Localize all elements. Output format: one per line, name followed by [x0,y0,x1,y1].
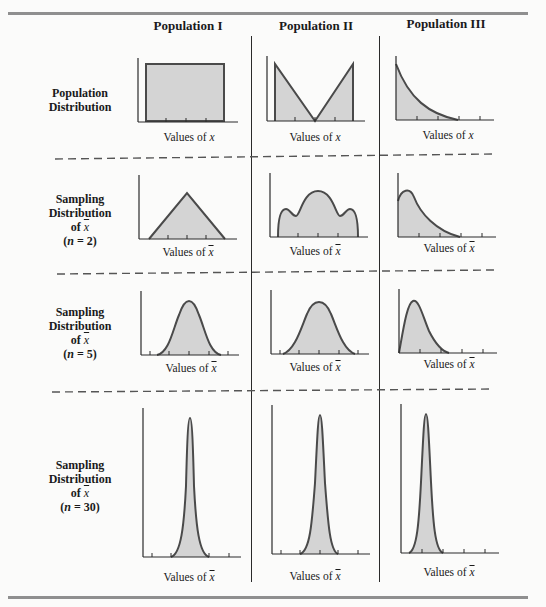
caption-pop1-n5: Values of x [131,362,251,374]
row-label-line: of x [36,333,124,347]
caption-pop3-n2: Values of x [389,242,509,254]
x-symbol: x [335,131,340,143]
row-label-line: of x [36,486,124,500]
plot-pop3-n5 [397,287,501,357]
xbar-symbol: x [84,333,89,347]
caption-pop2-n30: Values of x [255,570,375,582]
n-symbol: n [67,347,74,361]
row-label-line: Population [36,86,124,100]
caption-prefix: Values of [163,131,209,143]
of-text: of [71,333,84,347]
xbar-symbol: x [469,358,474,370]
caption-prefix: Values of [422,129,468,141]
equals: = [71,500,84,514]
row-label-sampling-n30: Sampling Distribution of x (n = 30) [36,458,124,514]
caption-prefix: Values of [423,358,469,370]
row-label-line: Distribution [36,472,124,486]
plot-pop2-n30 [270,403,374,558]
x-symbol: x [468,129,473,141]
caption-prefix: Values of [165,362,211,374]
xbar-symbol: x [209,571,214,583]
xbar-symbol: x [469,242,474,254]
plot-pop1-n2 [137,173,241,243]
row-label-line: Sampling [36,305,124,319]
plot-pop3-n30 [399,402,503,557]
xbar-symbol: x [335,361,340,373]
paren: ) [93,234,97,248]
xbar-symbol: x [335,570,340,582]
caption-prefix: Values of [423,242,469,254]
xbar-symbol: x [211,362,216,374]
plot-pop1-n5 [139,289,243,359]
x-symbol: x [209,131,214,143]
row-label-line: Distribution [36,100,124,114]
caption-pop2-n2: Values of x [255,245,375,257]
row-label-line: Distribution [36,206,124,220]
row-label-line: of x [36,220,124,234]
of-text: of [71,486,84,500]
plot-pop3-n2 [396,171,500,241]
caption-pop3-population: Values of x [388,129,508,141]
paren: ) [96,500,100,514]
caption-pop3-n30: Values of x [389,566,509,578]
row-label-population-distribution: Population Distribution [36,86,124,114]
caption-pop2-n5: Values of x [255,361,375,373]
plot-pop2-n5 [269,288,373,358]
xbar-symbol: x [84,486,89,500]
plot-pop2-n2 [268,171,372,241]
plot-pop1-n30 [141,406,245,561]
n-symbol: n [64,500,71,514]
caption-pop1-n30: Values of x [129,571,249,583]
equals: = [74,347,87,361]
xbar-symbol: x [208,246,213,258]
row-label-line: (n = 5) [36,347,124,361]
xbar-symbol: x [84,220,89,234]
caption-prefix: Values of [289,245,335,257]
xbar-symbol: x [335,245,340,257]
paren: ) [93,347,97,361]
caption-pop1-population: Values of x [129,131,249,143]
row-label-sampling-n5: Sampling Distribution of x (n = 5) [36,305,124,361]
row-label-line: Sampling [36,192,124,206]
caption-prefix: Values of [423,566,469,578]
row-label-sampling-n2: Sampling Distribution of x (n = 2) [36,192,124,248]
n-symbol: n [67,234,74,248]
row-label-line: (n = 2) [36,234,124,248]
xbar-symbol: x [469,566,474,578]
caption-pop3-n5: Values of x [389,358,509,370]
caption-pop2-population: Values of x [255,131,375,143]
row-label-line: Distribution [36,319,124,333]
caption-prefix: Values of [289,570,335,582]
caption-prefix: Values of [162,246,208,258]
plot-pop3-population [394,54,498,124]
of-text: of [71,220,84,234]
caption-prefix: Values of [163,571,209,583]
caption-pop1-n2: Values of x [128,246,248,258]
plot-pop2-population [265,54,369,124]
row-label-line: Sampling [36,458,124,472]
row-label-line: (n = 30) [36,500,124,514]
caption-prefix: Values of [289,131,335,143]
equals: = [74,234,87,248]
caption-prefix: Values of [289,361,335,373]
n-value: 30 [84,500,96,514]
plot-pop1-population [136,56,240,126]
